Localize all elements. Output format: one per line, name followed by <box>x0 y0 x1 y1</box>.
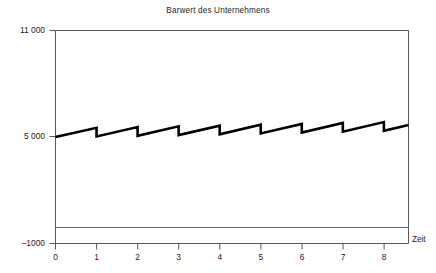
x-tick-label-6: 6 <box>300 252 305 262</box>
x-tick-label-8: 8 <box>382 252 387 262</box>
x-tick-label-5: 5 <box>259 252 264 262</box>
y-tick-label-top: 11 000 <box>0 25 45 35</box>
x-tick-label-0: 0 <box>53 252 58 262</box>
y-tick-label-bottom: –1000 <box>0 238 45 248</box>
plot-area <box>0 0 436 273</box>
x-tick-label-2: 2 <box>135 252 140 262</box>
x-tick-label-4: 4 <box>217 252 222 262</box>
y-axis-ticks <box>50 31 56 244</box>
data-series-barwert <box>56 122 409 137</box>
chart-figure: Barwert des Unternehmens <box>0 0 436 273</box>
plot-frame <box>56 31 409 244</box>
x-tick-label-1: 1 <box>94 252 99 262</box>
y-tick-label-middle: 5 000 <box>0 131 45 141</box>
x-tick-label-3: 3 <box>176 252 181 262</box>
x-axis-title: Zeit <box>412 235 426 244</box>
x-axis-ticks <box>56 244 385 250</box>
x-tick-label-7: 7 <box>341 252 346 262</box>
